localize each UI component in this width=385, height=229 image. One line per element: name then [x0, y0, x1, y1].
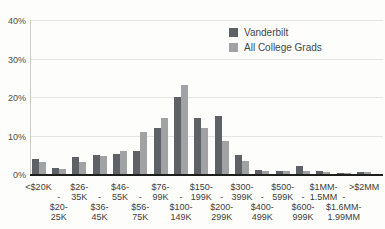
- bar-vanderbilt: [113, 154, 120, 174]
- x-tick-label: $56- 75K: [117, 202, 163, 222]
- bar-vanderbilt: [174, 97, 181, 174]
- x-tick-label: $1.6MM- 1.99MM: [321, 202, 367, 222]
- x-tick-label: $200- 299K: [199, 202, 245, 222]
- bar-all-college-grads: [201, 128, 208, 174]
- bar-vanderbilt: [296, 166, 303, 174]
- y-tick-label: 40%: [0, 16, 26, 26]
- x-tick-label: $400- 499K: [239, 202, 285, 222]
- bar-all-college-grads: [120, 151, 127, 174]
- legend-label: Vanderbilt: [244, 27, 288, 38]
- bar-vanderbilt: [235, 155, 242, 174]
- bar-all-college-grads: [100, 156, 107, 174]
- gridline-20: [30, 97, 383, 98]
- bar-all-college-grads: [222, 141, 229, 174]
- legend-swatch-icon: [229, 43, 238, 52]
- gridline-40: [30, 20, 383, 21]
- x-tick-label: $20- 25K: [36, 202, 82, 222]
- x-axis-line: [30, 174, 383, 176]
- income-distribution-bar-chart: 0%10%20%30%40% <$20K$20- 25K-$26- 35K$36…: [0, 0, 385, 229]
- legend-swatch-icon: [229, 28, 238, 37]
- y-tick-label: 10%: [0, 132, 26, 142]
- y-axis-line: [30, 20, 31, 174]
- bar-all-college-grads: [79, 162, 86, 174]
- x-tick-dash: -: [339, 192, 349, 202]
- bar-all-college-grads: [140, 132, 147, 174]
- bar-all-college-grads: [181, 85, 188, 174]
- bar-all-college-grads: [242, 161, 249, 174]
- legend-item: All College Grads: [229, 42, 322, 53]
- x-tick-label: $100- 149K: [158, 202, 204, 222]
- bar-vanderbilt: [32, 159, 39, 174]
- legend: VanderbiltAll College Grads: [229, 27, 322, 57]
- x-tick-label: $600- 999K: [280, 202, 326, 222]
- x-tick-label: $36- 45K: [77, 202, 123, 222]
- bar-vanderbilt: [72, 157, 79, 174]
- bar-vanderbilt: [133, 151, 140, 174]
- x-tick-label: >$2MM: [341, 182, 385, 192]
- y-tick-label: 20%: [0, 93, 26, 103]
- y-tick-label: 30%: [0, 55, 26, 65]
- bar-vanderbilt: [93, 155, 100, 174]
- bar-vanderbilt: [215, 116, 222, 174]
- x-tick-label: <$20K: [16, 182, 62, 192]
- legend-item: Vanderbilt: [229, 27, 322, 38]
- bar-vanderbilt: [194, 118, 201, 174]
- y-tick-label: 0%: [0, 170, 26, 180]
- bar-vanderbilt: [154, 128, 161, 174]
- bar-all-college-grads: [161, 118, 168, 174]
- gridline-30: [30, 59, 383, 60]
- bar-all-college-grads: [39, 162, 46, 174]
- legend-label: All College Grads: [244, 42, 322, 53]
